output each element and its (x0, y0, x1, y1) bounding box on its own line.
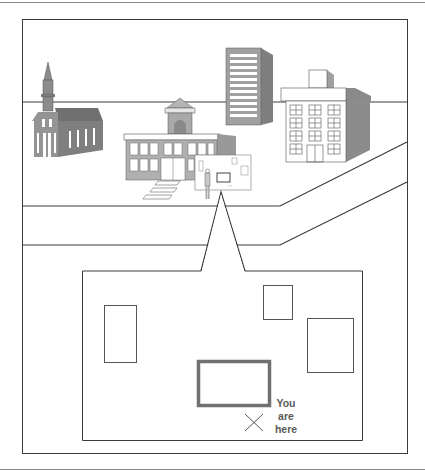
tower-block-building (226, 48, 273, 125)
inset-map-frame (83, 271, 363, 441)
label-line-3: here (269, 423, 303, 436)
you-are-here-marker (245, 414, 263, 431)
office-building (281, 70, 371, 162)
footprint-top-right-small (264, 286, 293, 320)
church-building (32, 62, 103, 157)
svg-text:× ▪: × ▪ (228, 184, 232, 188)
label-line-1: You (269, 397, 303, 410)
footprint-right (308, 319, 354, 373)
directory-map-sign: × ▪ (195, 155, 251, 190)
person-reading-sign (205, 169, 210, 199)
street-scene-illustration: × ▪ (0, 0, 425, 471)
footprint-left (105, 306, 137, 363)
you-are-here-label: You are here (269, 397, 303, 436)
footprint-center-highlighted (199, 362, 270, 406)
label-line-2: are (269, 410, 303, 423)
